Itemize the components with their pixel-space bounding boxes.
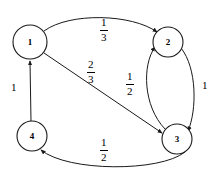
fraction-denominator: 2 [126,86,134,98]
fraction-two-thirds: 2 3 [87,59,95,86]
fraction-one-third: 1 3 [100,17,108,44]
fraction-one-half: 1 2 [100,137,108,164]
edge-2-to-3 [181,48,194,131]
node-4-label: 4 [30,131,35,141]
node-3[interactable]: 3 [162,124,192,154]
fraction-numerator: 1 [100,17,108,29]
edge-label-2-to-3: 1 [202,80,208,91]
node-4[interactable]: 4 [17,121,47,151]
node-1[interactable]: 1 [13,25,47,59]
edge-label-3-to-4: 1 2 [100,137,108,164]
edge-label-1-to-3: 2 3 [87,59,95,86]
fraction-denominator: 3 [100,32,108,44]
node-3-label: 3 [175,134,180,144]
fraction-denominator: 3 [87,74,95,86]
fraction-numerator: 1 [126,71,134,83]
node-2-label: 2 [166,37,171,47]
fraction-denominator: 2 [100,152,108,164]
graph-canvas: 1 2 3 4 [0,0,217,175]
edge-3-to-4 [41,150,185,167]
fraction-numerator: 2 [87,59,95,71]
weight-one: 1 [11,82,17,93]
edge-label-3-to-2: 1 2 [126,71,134,98]
weight-one: 1 [202,80,208,91]
nodes-group: 1 2 3 4 [13,25,192,154]
state-transition-diagram: 1 2 3 4 1 3 2 3 [0,0,217,175]
edge-4-to-1 [30,61,31,121]
edge-1-to-3 [44,53,162,133]
node-1-label: 1 [28,37,33,47]
edge-label-4-to-1: 1 [11,82,17,93]
fraction-one-half: 1 2 [126,71,134,98]
fraction-numerator: 1 [100,137,108,149]
edge-label-1-to-2: 1 3 [100,17,108,44]
edge-3-to-2 [147,47,165,129]
node-2[interactable]: 2 [153,27,183,57]
